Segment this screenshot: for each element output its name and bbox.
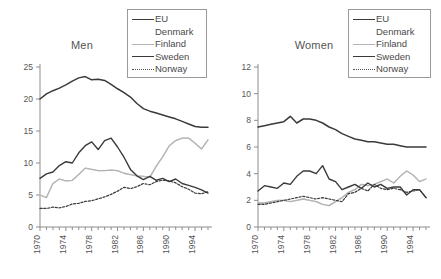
women-series-sweden — [258, 166, 426, 198]
legend-label-sweden: Sweden — [375, 52, 410, 62]
svg-text:8: 8 — [246, 115, 251, 125]
svg-text:1970: 1970 — [32, 235, 42, 254]
svg-text:1982: 1982 — [328, 235, 338, 254]
legend-women: EUDenmarkFinlandSwedenNorway — [348, 9, 431, 78]
men-series-finland — [40, 138, 208, 198]
svg-text:1994: 1994 — [405, 235, 415, 254]
svg-text:10: 10 — [242, 89, 252, 99]
svg-text:1994: 1994 — [187, 235, 197, 254]
svg-text:6: 6 — [246, 142, 251, 152]
svg-text:2: 2 — [246, 195, 251, 205]
svg-text:1982: 1982 — [110, 235, 120, 254]
legend-label-norway: Norway — [375, 64, 408, 74]
legend-line-icon-denmark — [131, 27, 154, 36]
legend-label-finland: Finland — [154, 39, 186, 49]
legend-label-eu: EU — [375, 14, 389, 24]
legend-entry-denmark: Denmark — [352, 25, 426, 37]
svg-text:1990: 1990 — [379, 235, 389, 254]
legend-label-denmark: Denmark — [154, 27, 194, 37]
svg-text:12: 12 — [242, 62, 252, 72]
svg-text:15: 15 — [24, 126, 34, 136]
svg-text:4: 4 — [246, 169, 251, 179]
svg-text:1974: 1974 — [58, 235, 68, 254]
legend-entry-eu: EU — [352, 13, 426, 25]
men-series-denmark — [40, 138, 208, 198]
svg-text:20: 20 — [24, 94, 34, 104]
svg-text:1986: 1986 — [353, 235, 363, 254]
svg-text:1974: 1974 — [276, 235, 286, 254]
svg-text:0: 0 — [246, 222, 251, 232]
legend-label-finland: Finland — [375, 39, 407, 49]
svg-text:10: 10 — [24, 158, 34, 168]
svg-text:1990: 1990 — [161, 235, 171, 254]
legend-entry-finland: Finland — [352, 38, 426, 50]
legend-label-sweden: Sweden — [154, 52, 189, 62]
legend-entry-denmark: Denmark — [131, 25, 202, 37]
svg-text:1978: 1978 — [302, 235, 312, 254]
legend-line-icon-sweden — [352, 52, 375, 61]
legend-line-icon-finland — [131, 39, 154, 48]
svg-text:5: 5 — [28, 190, 33, 200]
men-series-norway — [40, 180, 208, 208]
svg-text:1978: 1978 — [84, 235, 94, 254]
legend-entry-eu: EU — [131, 13, 202, 25]
legend-entry-norway: Norway — [352, 63, 426, 75]
legend-entry-sweden: Sweden — [131, 50, 202, 62]
legend-line-icon-finland — [352, 39, 375, 48]
women-series-eu — [258, 116, 426, 147]
figure-two-panel-line-charts: Men 051015202519701974197819821986199019… — [0, 0, 441, 279]
svg-text:1970: 1970 — [250, 235, 260, 254]
legend-line-icon-eu — [131, 15, 154, 24]
men-series-eu — [40, 77, 208, 128]
legend-entry-norway: Norway — [131, 63, 202, 75]
legend-label-eu: EU — [154, 14, 168, 24]
legend-line-icon-denmark — [352, 27, 375, 36]
legend-label-norway: Norway — [154, 64, 187, 74]
legend-line-icon-norway — [352, 64, 375, 73]
svg-text:1986: 1986 — [135, 235, 145, 254]
legend-line-icon-eu — [352, 15, 375, 24]
legend-label-denmark: Denmark — [375, 27, 415, 37]
svg-text:25: 25 — [24, 62, 34, 72]
men-series-sweden — [40, 138, 208, 193]
legend-entry-finland: Finland — [131, 38, 202, 50]
legend-line-icon-sweden — [131, 52, 154, 61]
legend-line-icon-norway — [131, 64, 154, 73]
svg-text:0: 0 — [28, 222, 33, 232]
legend-entry-sweden: Sweden — [352, 50, 426, 62]
legend-men: EUDenmarkFinlandSwedenNorway — [127, 9, 207, 78]
